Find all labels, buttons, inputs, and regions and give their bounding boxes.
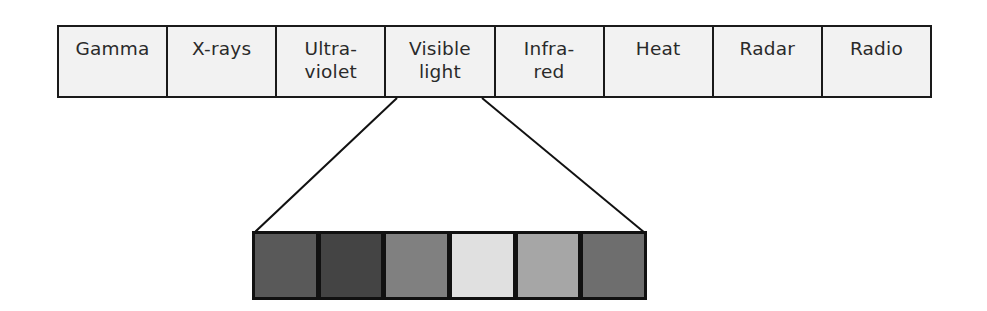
visible-light-swatch-bar: [252, 231, 647, 300]
electromagnetic-spectrum-bar: Gamma X-rays Ultra- violet Visible light…: [57, 25, 932, 98]
swatch-6: [583, 234, 644, 297]
swatch-2: [321, 234, 382, 297]
swatch-3: [386, 234, 447, 297]
right-connector-line: [482, 98, 645, 233]
band-visible-light: Visible light: [386, 27, 495, 96]
band-heat: Heat: [605, 27, 714, 96]
band-x-rays: X-rays: [168, 27, 277, 96]
swatch-5: [518, 234, 579, 297]
band-infrared: Infra- red: [496, 27, 605, 96]
band-radio: Radio: [823, 27, 930, 96]
band-radar: Radar: [714, 27, 823, 96]
swatch-1: [255, 234, 316, 297]
band-gamma: Gamma: [59, 27, 168, 96]
band-ultraviolet: Ultra- violet: [277, 27, 386, 96]
left-connector-line: [254, 98, 397, 233]
swatch-4: [452, 234, 513, 297]
